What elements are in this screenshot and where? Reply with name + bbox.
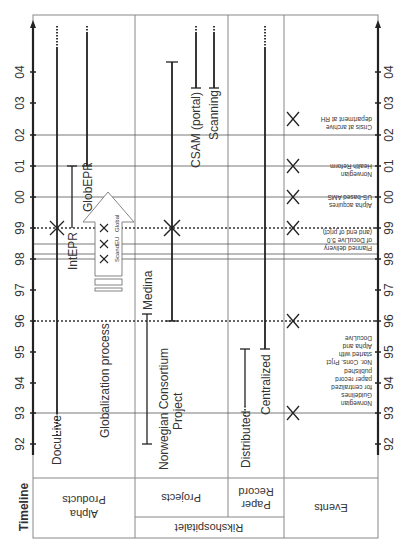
svg-text:99: 99 [382, 221, 396, 235]
svg-text:Alpha acquires: Alpha acquires [328, 201, 372, 209]
svg-text:Health Reform: Health Reform [330, 163, 372, 170]
svg-text:Alpha and: Alpha and [342, 342, 372, 350]
svg-text:Nor. Cons. Prjct: Nor. Cons. Prjct [326, 358, 372, 366]
header-record: Record [238, 486, 273, 498]
projects-lanes [142, 26, 219, 444]
svg-text:04: 04 [13, 65, 27, 79]
svg-text:CSAM (portal): CSAM (portal) [189, 92, 203, 168]
header-alpha: Alpha [69, 508, 98, 520]
frame [33, 15, 378, 538]
svg-text:01: 01 [13, 159, 27, 173]
svg-text:03: 03 [13, 96, 27, 110]
svg-text:Guidelines: Guidelines [341, 392, 372, 399]
svg-text:94: 94 [13, 376, 27, 390]
svg-text:00: 00 [13, 190, 27, 204]
event-labels: Norwegian Guidelines for centralized pap… [320, 115, 372, 407]
svg-text:97: 97 [13, 283, 27, 297]
svg-text:Global: Global [114, 215, 120, 232]
event-markers [287, 112, 299, 420]
header-products: Products [62, 494, 106, 506]
dotted-year-lines [33, 228, 378, 321]
right-axis [375, 20, 381, 455]
svg-text:DocuLive: DocuLive [50, 415, 64, 465]
header-paper: Paper [241, 499, 271, 511]
svg-text:96: 96 [13, 314, 27, 328]
svg-text:Scanning: Scanning [207, 90, 221, 140]
svg-text:Norwegian Consortium: Norwegian Consortium [157, 348, 171, 470]
svg-text:92: 92 [382, 437, 396, 451]
svg-text:04: 04 [382, 65, 396, 79]
svg-text:Project: Project [171, 392, 185, 430]
svg-text:01: 01 [382, 159, 396, 173]
svg-text:93: 93 [13, 406, 27, 420]
header-rikshospitalet: Rikshospitalet [175, 522, 243, 534]
svg-text:Planned delivery: Planned delivery [323, 244, 372, 252]
column-headers: Alpha Products Projects Paper Record Rik… [62, 486, 348, 534]
header-events: Events [314, 502, 348, 514]
svg-text:98: 98 [382, 252, 396, 266]
left-year-labels: 92 93 94 95 96 97 98 99 00 01 02 03 04 [13, 65, 27, 451]
timeline-header: Timeline [17, 482, 31, 531]
svg-text:Norwegian: Norwegian [341, 399, 372, 407]
left-axis [30, 20, 36, 455]
svg-text:92: 92 [13, 437, 27, 451]
svg-text:97: 97 [382, 283, 396, 297]
svg-text:95: 95 [382, 345, 396, 359]
svg-text:department at RH: department at RH [320, 115, 372, 123]
svg-text:00: 00 [382, 190, 396, 204]
timeline-diagram: 92 93 94 95 96 97 98 99 00 01 02 03 04 9… [0, 0, 411, 548]
svg-text:96: 96 [382, 314, 396, 328]
svg-text:paper record: paper record [335, 375, 372, 383]
svg-text:US-based AMS: US-based AMS [327, 194, 372, 201]
svg-text:DocuLive: DocuLive [345, 335, 372, 342]
svg-text:Distributed: Distributed [239, 411, 253, 468]
svg-text:published: published [344, 367, 372, 375]
svg-text:Globalization process: Globalization process [98, 323, 112, 438]
svg-text:02: 02 [13, 128, 27, 142]
svg-text:GlobEPR: GlobEPR [81, 162, 95, 212]
paper-record-labels: Distributed Centralized [239, 354, 273, 468]
svg-text:Norwegian: Norwegian [341, 170, 372, 178]
svg-text:94: 94 [382, 376, 396, 390]
svg-text:IntEPR: IntEPR [66, 232, 80, 270]
svg-text:93: 93 [382, 406, 396, 420]
right-year-labels: 92 93 94 95 96 97 98 99 00 01 02 03 04 [382, 65, 396, 451]
svg-text:for centralized: for centralized [331, 384, 372, 391]
svg-text:02: 02 [382, 128, 396, 142]
svg-text:Medina: Medina [141, 270, 155, 310]
svg-text:of DocuLive 5.0: of DocuLive 5.0 [326, 237, 372, 244]
svg-text:Crisis at archive: Crisis at archive [325, 124, 372, 131]
alpha-products-lanes [50, 26, 134, 435]
svg-text:started with: started with [338, 351, 372, 358]
header-projects: Projects [161, 492, 201, 504]
svg-text:99: 99 [13, 221, 27, 235]
svg-text:03: 03 [382, 96, 396, 110]
svg-text:EU: EU [114, 237, 120, 245]
svg-text:98: 98 [13, 252, 27, 266]
svg-text:(and end of prjct): (and end of prjct) [323, 228, 372, 236]
svg-text:Centralized: Centralized [259, 354, 273, 415]
svg-text:95: 95 [13, 345, 27, 359]
